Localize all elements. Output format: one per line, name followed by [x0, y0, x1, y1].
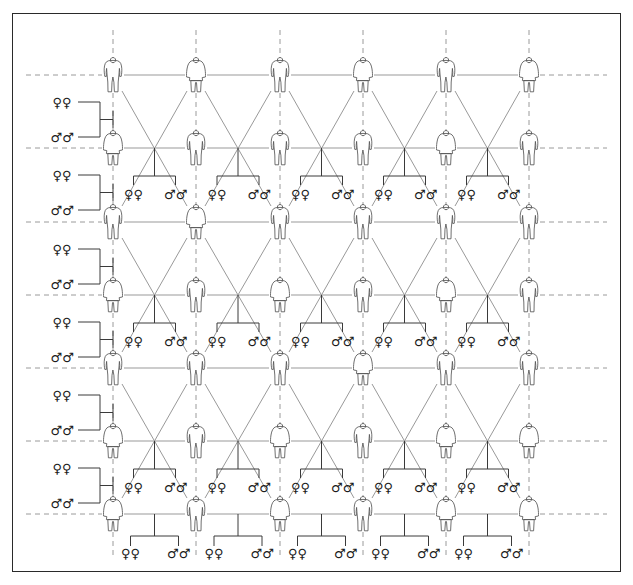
offspring-female-pair-label: ♀♀ [374, 335, 393, 348]
bottom-offspring-female-pair-label: ♀♀ [121, 547, 140, 560]
bottom-offspring-male-pair-label: ♂♂ [500, 547, 523, 560]
marriage-male-pair-label: ♂♂ [51, 204, 74, 217]
offspring-male-pair-label: ♂♂ [497, 188, 520, 201]
bottom-offspring-male-pair-label: ♂♂ [334, 547, 357, 560]
offspring-female-pair-label: ♀♀ [291, 335, 310, 348]
bottom-offspring-female-pair-label: ♀♀ [454, 547, 473, 560]
offspring-male-pair-label: ♂♂ [164, 481, 187, 494]
offspring-female-pair-label: ♀♀ [291, 188, 310, 201]
bottom-offspring-female-pair-label: ♀♀ [205, 547, 224, 560]
marriage-male-pair-label: ♂♂ [51, 497, 74, 510]
marriage-male-pair-label: ♂♂ [51, 131, 74, 144]
offspring-male-pair-label: ♂♂ [331, 335, 354, 348]
marriage-female-pair-label: ♀♀ [53, 96, 72, 109]
bottom-offspring-male-pair-label: ♂♂ [167, 547, 190, 560]
offspring-male-pair-label: ♂♂ [497, 481, 520, 494]
marriage-male-pair-label: ♂♂ [51, 278, 74, 291]
offspring-female-pair-label: ♀♀ [124, 481, 143, 494]
offspring-male-pair-label: ♂♂ [164, 335, 187, 348]
offspring-female-pair-label: ♀♀ [208, 188, 227, 201]
offspring-male-pair-label: ♂♂ [414, 335, 437, 348]
offspring-female-pair-label: ♀♀ [208, 335, 227, 348]
marriage-female-pair-label: ♀♀ [53, 169, 72, 182]
offspring-male-pair-label: ♂♂ [497, 335, 520, 348]
offspring-female-pair-label: ♀♀ [457, 335, 476, 348]
offspring-male-pair-label: ♂♂ [414, 481, 437, 494]
offspring-male-pair-label: ♂♂ [248, 481, 271, 494]
marriage-male-pair-label: ♂♂ [51, 351, 74, 364]
bottom-offspring-male-pair-label: ♂♂ [251, 547, 274, 560]
bottom-offspring-male-pair-label: ♂♂ [417, 547, 440, 560]
offspring-female-pair-label: ♀♀ [457, 188, 476, 201]
offspring-female-pair-label: ♀♀ [124, 335, 143, 348]
marriage-female-pair-label: ♀♀ [53, 462, 72, 475]
marriage-male-pair-label: ♂♂ [51, 424, 74, 437]
marriage-female-pair-label: ♀♀ [53, 389, 72, 402]
offspring-female-pair-label: ♀♀ [374, 481, 393, 494]
offspring-male-pair-label: ♂♂ [331, 481, 354, 494]
offspring-male-pair-label: ♂♂ [331, 188, 354, 201]
diagram-frame-border [12, 13, 621, 572]
offspring-female-pair-label: ♀♀ [457, 481, 476, 494]
marriage-female-pair-label: ♀♀ [53, 243, 72, 256]
offspring-male-pair-label: ♂♂ [248, 188, 271, 201]
offspring-male-pair-label: ♂♂ [248, 335, 271, 348]
marriage-female-pair-label: ♀♀ [53, 316, 72, 329]
offspring-male-pair-label: ♂♂ [414, 188, 437, 201]
offspring-female-pair-label: ♀♀ [208, 481, 227, 494]
offspring-female-pair-label: ♀♀ [374, 188, 393, 201]
offspring-female-pair-label: ♀♀ [124, 188, 143, 201]
offspring-male-pair-label: ♂♂ [164, 188, 187, 201]
bottom-offspring-female-pair-label: ♀♀ [371, 547, 390, 560]
offspring-female-pair-label: ♀♀ [291, 481, 310, 494]
bottom-offspring-female-pair-label: ♀♀ [288, 547, 307, 560]
kinship-diagram-root: ♀♀♂♂♀♀♂♂♀♀♂♂♀♀♂♂♀♀♂♂♀♀♂♂♀♀♂♂♀♀♂♂♀♀♂♂♀♀♂♂… [0, 0, 633, 585]
